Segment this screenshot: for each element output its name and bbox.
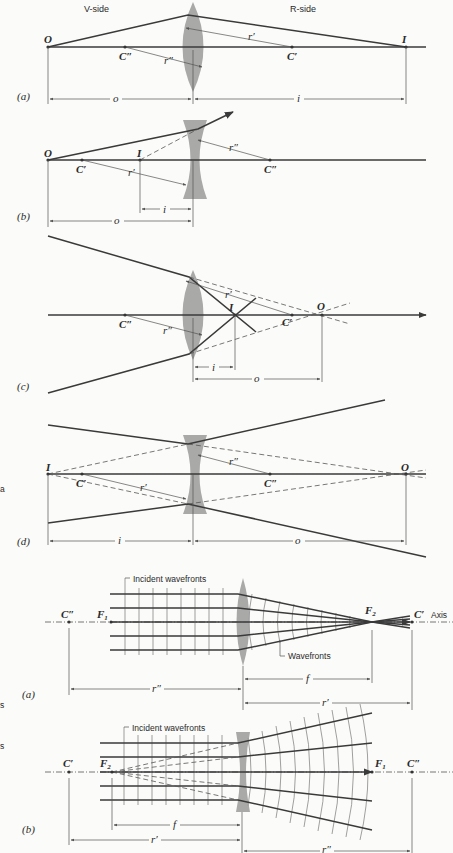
margin-fragment: s xyxy=(0,741,4,751)
svg-text:(b): (b) xyxy=(22,823,35,836)
svg-text:o: o xyxy=(113,92,119,104)
focus-f1: F1 xyxy=(374,757,386,771)
svg-text:C′: C′ xyxy=(76,163,86,175)
radius-label-r2: r″ xyxy=(164,54,173,66)
svg-text:r′: r′ xyxy=(128,166,135,178)
ray xyxy=(48,236,256,332)
panel-label: (a) xyxy=(17,90,30,103)
axis-label: Axis xyxy=(431,610,447,620)
svg-text:r′: r′ xyxy=(225,288,232,300)
svg-text:C″: C″ xyxy=(61,608,74,620)
ray xyxy=(48,504,426,557)
r-side-label: R-side xyxy=(290,4,316,14)
svg-text:C″: C″ xyxy=(119,318,132,330)
panel-1a: V-side R-side O I C″ C′ r′ r″ o i (a) xyxy=(17,2,426,104)
panel-2a: Incident wavefronts C″ F1 F2 C′ Axis Wav… xyxy=(22,574,453,710)
panel-1b: O I C′ C″ r′ r″ i o (b) xyxy=(17,112,426,227)
svg-text:r″: r″ xyxy=(322,843,331,853)
focus-f1: F1 xyxy=(96,608,108,622)
panel-2b: Incident wavefronts C′ F2 F1 C″ f r′ r″ … xyxy=(22,704,453,853)
margin-fragment: s xyxy=(0,700,4,710)
svg-text:i: i xyxy=(297,92,300,104)
ray xyxy=(48,15,406,47)
focus-f2: F2 xyxy=(99,757,111,771)
svg-text:r″: r″ xyxy=(163,324,172,336)
svg-text:i: i xyxy=(118,534,121,546)
svg-text:o: o xyxy=(114,214,120,226)
svg-text:O: O xyxy=(44,147,52,159)
svg-text:I: I xyxy=(136,147,142,159)
svg-text:r′: r′ xyxy=(322,696,329,708)
svg-text:(a): (a) xyxy=(22,688,35,701)
svg-text:o: o xyxy=(254,372,260,384)
wavefronts-label: Wavefronts xyxy=(288,651,331,661)
svg-text:r″: r″ xyxy=(152,682,161,694)
ray xyxy=(48,400,385,444)
object-point: O xyxy=(44,33,52,45)
incident-wavefronts-label: Incident wavefronts xyxy=(133,574,206,584)
image-point: I xyxy=(401,33,407,45)
svg-text:C″: C″ xyxy=(264,477,277,489)
svg-text:C″: C″ xyxy=(264,163,277,175)
optics-figure-canvas: V-side R-side O I C″ C′ r′ r″ o i (a) O xyxy=(0,0,453,853)
svg-text:r′: r′ xyxy=(151,833,158,845)
center-left: C″ xyxy=(119,50,132,62)
svg-text:Incident wavefronts: Incident wavefronts xyxy=(132,723,205,733)
svg-text:I: I xyxy=(228,301,234,313)
svg-text:r″: r″ xyxy=(229,455,238,467)
svg-text:O: O xyxy=(401,461,409,473)
svg-text:I: I xyxy=(45,461,51,473)
svg-text:C′: C′ xyxy=(63,757,73,769)
focus-f2: F2 xyxy=(364,604,376,618)
svg-text:i: i xyxy=(163,203,166,215)
svg-text:C″: C″ xyxy=(407,757,420,769)
svg-text:i: i xyxy=(212,361,215,373)
svg-text:o: o xyxy=(295,534,301,546)
svg-text:(d): (d) xyxy=(17,535,30,548)
svg-text:C′: C′ xyxy=(282,316,292,328)
panel-1c: I O C″ C′ r′ r″ i o (c) xyxy=(17,236,426,393)
svg-text:(b): (b) xyxy=(17,210,30,223)
svg-text:(c): (c) xyxy=(17,380,30,393)
margin-fragment: a xyxy=(0,484,5,494)
panel-1d: I O C′ C″ r′ r″ i o (d) xyxy=(17,400,426,557)
radius-label-r1: r′ xyxy=(248,30,255,42)
svg-text:O: O xyxy=(317,300,325,312)
svg-text:r′: r′ xyxy=(140,481,147,493)
v-side-label: V-side xyxy=(84,4,109,14)
svg-text:C′: C′ xyxy=(414,608,424,620)
center-right: C′ xyxy=(287,50,297,62)
svg-text:C′: C′ xyxy=(76,477,86,489)
svg-text:r″: r″ xyxy=(229,141,238,153)
